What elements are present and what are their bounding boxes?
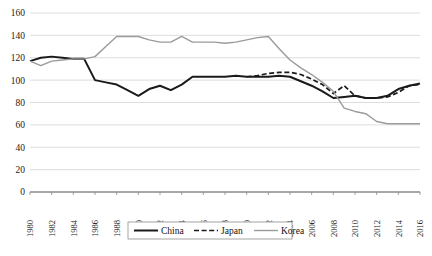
chart-figure: 020406080100120140160 198019821984198619… [0, 0, 432, 256]
y-axis-tick-labels: 020406080100120140160 [11, 8, 26, 197]
x-tick-2016: 2016 [415, 220, 425, 237]
x-tick-1980: 1980 [25, 220, 35, 237]
x-tick-2008: 2008 [329, 220, 339, 237]
x-tick-1982: 1982 [47, 220, 57, 237]
legend-label-korea: Korea [281, 226, 305, 236]
caption-ghost [0, 243, 432, 256]
y-tick-120: 120 [11, 53, 26, 63]
y-tick-0: 0 [20, 187, 25, 197]
y-tick-160: 160 [11, 8, 26, 18]
x-tick-2014: 2014 [394, 219, 404, 237]
series-line-china [30, 57, 420, 98]
y-tick-40: 40 [16, 143, 26, 153]
line-chart-svg: 020406080100120140160 198019821984198619… [0, 0, 432, 256]
x-tick-1986: 1986 [90, 220, 100, 237]
x-tick-1984: 1984 [69, 219, 79, 237]
legend-label-japan: Japan [221, 226, 243, 236]
x-tick-2006: 2006 [307, 220, 317, 237]
y-tick-60: 60 [16, 120, 26, 130]
y-tick-20: 20 [16, 165, 26, 175]
x-tick-1988: 1988 [112, 220, 122, 237]
y-tick-100: 100 [11, 76, 26, 86]
chart-legend: ChinaJapanKorea [128, 222, 305, 239]
legend-label-china: China [161, 226, 184, 236]
x-tick-2010: 2010 [350, 220, 360, 237]
y-tick-80: 80 [16, 98, 26, 108]
x-tick-2012: 2012 [372, 220, 382, 237]
gridlines [30, 13, 420, 192]
y-tick-140: 140 [11, 31, 26, 41]
